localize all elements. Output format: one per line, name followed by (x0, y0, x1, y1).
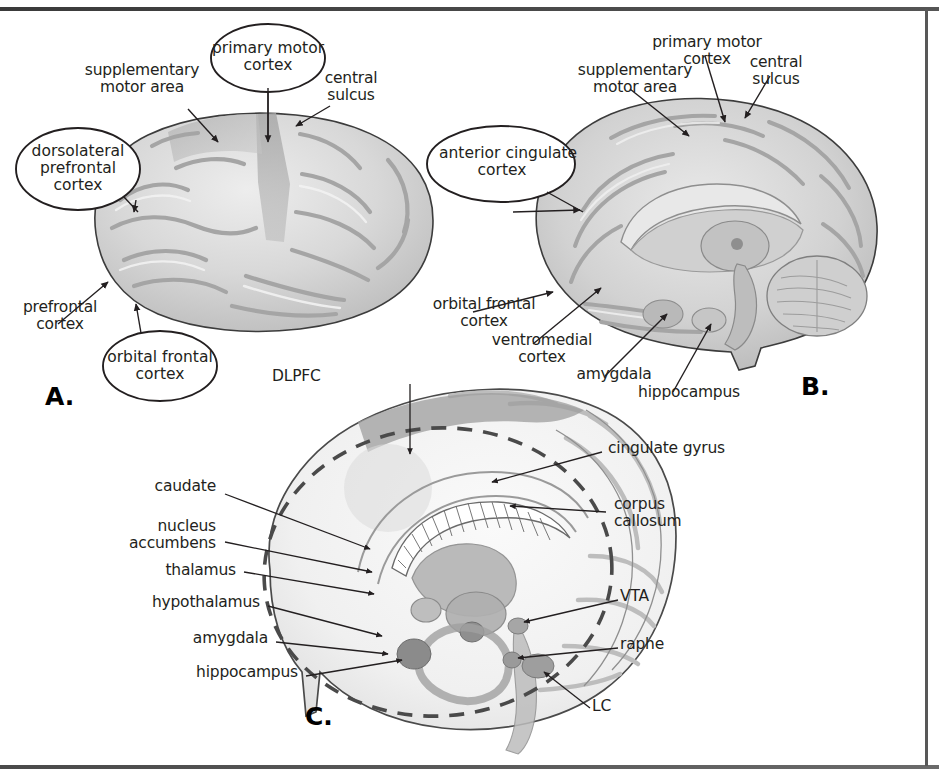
label-central-sulcus: central sulcus (310, 70, 392, 104)
cerebellum (767, 256, 867, 336)
label-central-sulcus-b: central sulcus (735, 54, 817, 88)
panel-a: supplementary motor area central sulcus … (0, 14, 470, 414)
frame-right-rule (925, 9, 928, 766)
nucleus-accumbens-shape (411, 598, 441, 622)
amygdala-shape (397, 639, 431, 669)
brain-anatomy-figure: supplementary motor area central sulcus … (0, 0, 939, 775)
label-hippocampus-c: hippocampus (148, 664, 298, 681)
label-supplementary-motor-area: supplementary motor area (72, 62, 212, 96)
callout-primary-motor-cortex: primary motor cortex (208, 40, 328, 74)
raphe-shape (503, 652, 521, 668)
label-caudate: caudate (110, 478, 216, 495)
callout-dorsolateral-prefrontal-cortex: dorsolateral prefrontal cortex (16, 143, 140, 194)
label-hypothalamus: hypothalamus (104, 594, 260, 611)
panel-letter-a: A. (45, 382, 74, 411)
frame-bottom-rule (0, 765, 939, 769)
label-cingulate-gyrus: cingulate gyrus (608, 440, 725, 457)
label-lc: LC (592, 698, 611, 715)
label-prefrontal-cortex: prefrontal cortex (8, 299, 112, 333)
label-corpus-callosum: corpus callosum (614, 496, 682, 530)
callout-anterior-cingulate-cortex: anterior cingulate cortex (439, 145, 565, 179)
panel-letter-c: C. (305, 702, 333, 731)
label-vta: VTA (620, 588, 649, 605)
label-supplementary-motor-area-b: supplementary motor area (565, 62, 705, 96)
vta-shape (508, 618, 528, 634)
panel-c: DLPFC caudate nucleus accumbens thalamus… (120, 360, 820, 765)
label-amygdala-c: amygdala (136, 630, 268, 647)
label-nucleus-accumbens: nucleus accumbens (96, 518, 216, 552)
panel-b: primary motor cortex supplementary motor… (425, 14, 925, 414)
panel-a-illustration (0, 14, 470, 414)
dlpfc-patch (344, 444, 432, 532)
label-thalamus: thalamus (120, 562, 236, 579)
label-raphe: raphe (620, 636, 664, 653)
label-orbital-frontal-cortex-b: orbital frontal cortex (425, 296, 543, 330)
frame-top-rule (0, 7, 939, 11)
label-dlpfc: DLPFC (272, 368, 321, 385)
